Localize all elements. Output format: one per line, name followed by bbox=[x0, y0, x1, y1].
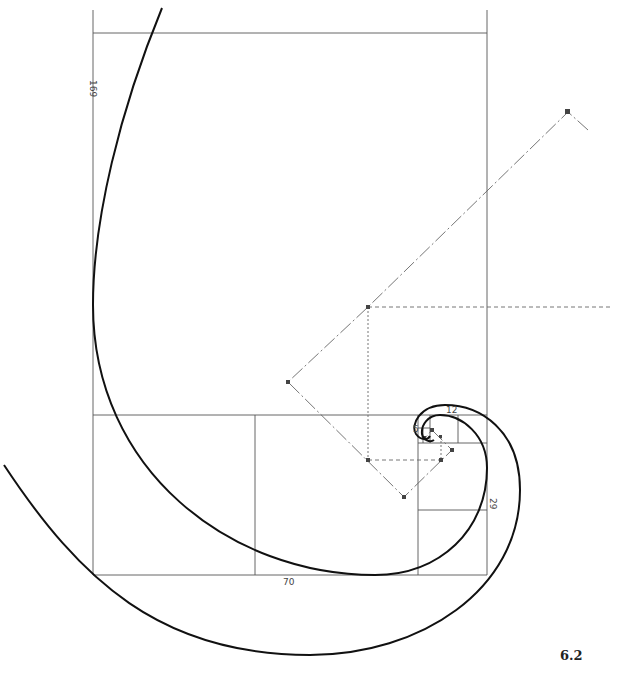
dimension-label-tiny: 5 bbox=[413, 424, 419, 434]
dimension-label-top: 12 bbox=[446, 405, 457, 415]
outer-spiral bbox=[4, 405, 520, 655]
construction-rectangles bbox=[93, 10, 487, 575]
inner-spiral bbox=[93, 8, 487, 575]
dimension-label-right: 29 bbox=[488, 498, 498, 510]
dimension-label-bottom: 70 bbox=[283, 577, 295, 587]
centre-construction-lines bbox=[288, 112, 612, 497]
figure-number: 6.2 bbox=[560, 648, 583, 663]
spiral-diagram: 169 70 29 12 5 6.2 bbox=[0, 0, 620, 689]
dimension-label-left: 169 bbox=[88, 80, 98, 97]
